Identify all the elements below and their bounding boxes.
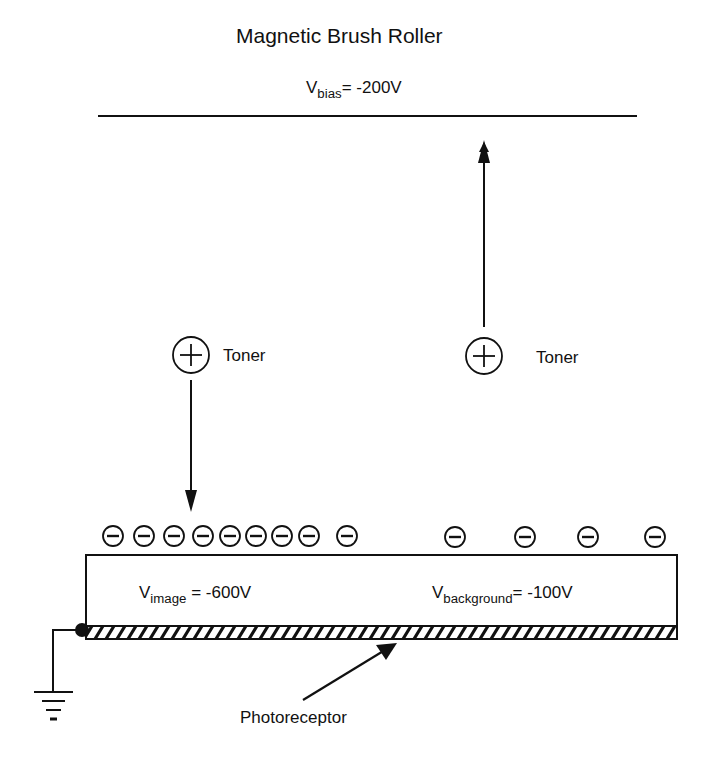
diagram-canvas: [0, 0, 718, 759]
minus-charge-icon: [220, 526, 240, 546]
minus-charge-icon: [337, 526, 357, 546]
toner-label-left: Toner: [223, 347, 266, 364]
background-charges: [445, 527, 665, 547]
minus-charge-icon: [164, 526, 184, 546]
minus-charge-icon: [578, 527, 598, 547]
minus-charge-icon: [515, 527, 535, 547]
minus-charge-icon: [445, 527, 465, 547]
photoreceptor-label: Photoreceptor: [240, 709, 347, 726]
image-charges: [103, 526, 357, 546]
minus-charge-icon: [272, 526, 292, 546]
toner-label-right: Toner: [536, 349, 579, 366]
minus-charge-icon: [246, 526, 266, 546]
minus-charge-icon: [645, 527, 665, 547]
toner-plus-icon-right: [466, 338, 502, 374]
diagram-title: Magnetic Brush Roller: [236, 25, 443, 46]
toner-plus-icon-left: [173, 337, 209, 373]
minus-charge-icon: [193, 526, 213, 546]
ground-icon: [34, 624, 88, 719]
minus-charge-icon: [103, 526, 123, 546]
conductive-substrate: [86, 626, 677, 639]
bias-voltage-label: Vbias= -200V: [306, 79, 402, 96]
background-voltage-label: Vbackground= -100V: [432, 584, 573, 601]
photoreceptor-arrow: [303, 650, 385, 700]
minus-charge-icon: [299, 526, 319, 546]
minus-charge-icon: [134, 526, 154, 546]
image-voltage-label: Vimage = -600V: [139, 584, 251, 601]
